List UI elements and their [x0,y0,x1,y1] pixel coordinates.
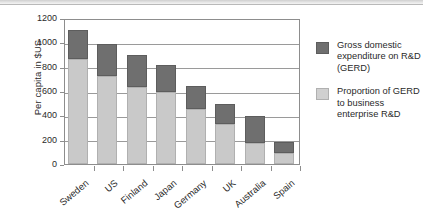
bar-stack [97,44,117,164]
y-axis-tick-label: 0 [15,159,57,169]
y-axis-tick-label: 400 [15,110,57,120]
bar-segment-gerd [215,104,235,124]
bar-segment-business-enterprise [97,76,117,164]
x-axis-tick-mark [212,166,213,171]
chart-page: Per capita in $US 020040060080010001200 … [0,0,423,211]
x-axis-tick-mark [182,166,183,171]
legend-label: Gross domestic expenditure on R&D (GERD) [337,40,421,74]
bar-segment-business-enterprise [215,124,235,164]
y-axis-tick-label: 1200 [15,13,57,23]
bar-segment-gerd [156,65,176,92]
y-axis-tick-label: 200 [15,135,57,145]
page-top-edge-line [0,4,423,5]
legend-entry: Gross domestic expenditure on R&D (GERD) [316,40,421,74]
bar-stack [68,30,88,164]
bar-segment-gerd [127,55,147,88]
bar-segment-business-enterprise [68,59,88,164]
legend-swatch-dark [316,42,329,54]
bar-segment-gerd [97,44,117,77]
bar-stack [127,55,147,165]
bar-stack [156,65,176,164]
bar-segment-gerd [245,116,265,143]
y-axis-tick-label: 600 [15,86,57,96]
bar-segment-business-enterprise [186,109,206,164]
bar-stack [245,116,265,164]
legend-entry: Proportion of GERD to business enterpris… [316,86,421,120]
x-axis-tick-mark [241,166,242,171]
y-axis-title: Per capita in $US [32,13,43,143]
bar-segment-gerd [186,86,206,109]
bar-segment-gerd [274,142,294,154]
plot-area [64,19,300,165]
x-axis-tick-mark [94,166,95,171]
x-axis-tick-mark [271,166,272,171]
bar-segment-business-enterprise [127,87,147,164]
y-axis-tick-mark [60,165,64,166]
legend-label: Proportion of GERD to business enterpris… [337,86,421,120]
x-axis-tick-mark [300,166,301,171]
bar-segment-business-enterprise [156,92,176,164]
bar-segment-business-enterprise [274,153,294,164]
bar-segment-gerd [68,30,88,59]
x-axis-tick-mark [123,166,124,171]
bar-segment-business-enterprise [245,143,265,164]
bar-stack [186,86,206,164]
bar-stack [274,142,294,165]
x-axis-tick-mark [153,166,154,171]
legend-swatch-light [316,88,329,100]
y-axis-tick-label: 800 [15,62,57,72]
chart-legend: Gross domestic expenditure on R&D (GERD)… [316,40,421,132]
y-axis-tick-label: 1000 [15,37,57,47]
bar-stack [215,104,235,164]
